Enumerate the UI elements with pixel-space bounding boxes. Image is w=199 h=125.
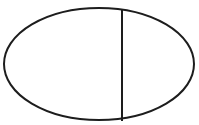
line-drawing-svg — [0, 0, 199, 125]
figure-canvas: Ellipse divided by a vertical chord A bl… — [0, 0, 199, 125]
canvas-background — [0, 0, 199, 125]
